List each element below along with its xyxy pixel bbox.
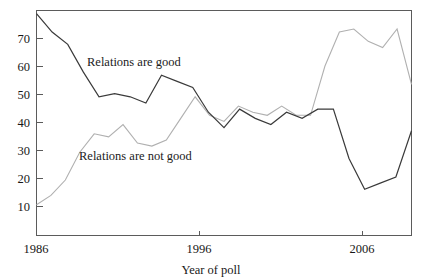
- annotation-relations-good: Relations are good: [87, 55, 181, 69]
- y-tick-label-60: 60: [18, 60, 31, 74]
- line-chart: 70 60 50 40 30 20 10 1986 1996 2006 Year…: [0, 0, 422, 280]
- x-tick-label-1986: 1986: [24, 242, 49, 256]
- y-tick-label-10: 10: [18, 200, 31, 214]
- y-tick-label-40: 40: [18, 116, 31, 130]
- chart-background: [0, 0, 422, 280]
- y-tick-label-30: 30: [18, 144, 31, 158]
- chart-container: 70 60 50 40 30 20 10 1986 1996 2006 Year…: [0, 0, 422, 280]
- y-tick-label-70: 70: [18, 32, 31, 46]
- x-tick-label-2006: 2006: [350, 242, 375, 256]
- y-tick-label-50: 50: [18, 88, 31, 102]
- x-axis-title: Year of poll: [181, 263, 241, 277]
- y-tick-label-20: 20: [18, 172, 31, 186]
- x-tick-label-1996: 1996: [187, 242, 212, 256]
- annotation-relations-not-good: Relations are not good: [79, 149, 193, 163]
